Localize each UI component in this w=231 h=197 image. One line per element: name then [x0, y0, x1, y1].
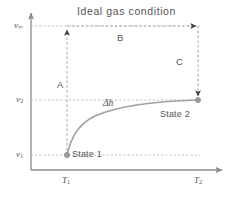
- diagram-title: Ideal gas condition: [77, 6, 176, 17]
- x-tick-label-t2: T2: [194, 176, 202, 185]
- x-tick-t1-sub: 1: [67, 178, 70, 185]
- y-tick-label-v-infinity: v∞: [14, 21, 23, 30]
- state-2-label: State 2: [160, 110, 190, 119]
- state-1-label: State 1: [72, 150, 102, 159]
- delta-h-label: Δh: [103, 99, 113, 109]
- region-label-a: A: [57, 80, 64, 90]
- y-tick-v1-sub: 1: [20, 152, 23, 159]
- region-label-c: C: [176, 57, 183, 67]
- state-1-marker: [64, 152, 69, 157]
- x-tick-t2-sub: 2: [199, 178, 202, 185]
- x-tick-label-t1: T1: [62, 176, 70, 185]
- region-label-b: B: [117, 33, 124, 43]
- diagram-canvas: [0, 0, 231, 197]
- y-tick-label-v2: v2: [16, 95, 23, 104]
- y-tick-label-v1: v1: [16, 150, 23, 159]
- state-2-marker: [195, 97, 200, 102]
- thermodynamic-diagram: Ideal gas condition v∞ v2 v1 T1 T2 A B C…: [0, 0, 231, 197]
- y-tick-v2-sub: 2: [20, 97, 23, 104]
- y-tick-v-infinity-sub: ∞: [18, 23, 23, 30]
